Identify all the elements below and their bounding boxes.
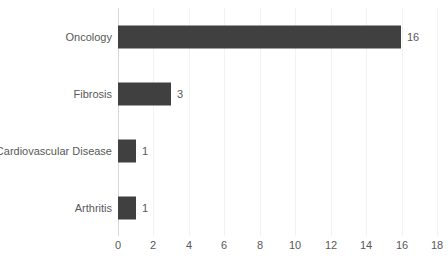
x-tick-10: 10 <box>289 240 301 251</box>
x-tick-6: 6 <box>221 240 227 251</box>
category-label-fibrosis: Fibrosis <box>0 65 112 122</box>
x-tick-2: 2 <box>150 240 156 251</box>
category-label-oncology: Oncology <box>0 8 112 65</box>
category-label-cardiovascular-disease: Cardiovascular Disease <box>0 122 112 179</box>
x-tick-12: 12 <box>325 240 337 251</box>
bar-value-fibrosis: 3 <box>177 88 183 99</box>
bar-value-cardiovascular-disease: 1 <box>142 145 148 156</box>
x-tick-0: 0 <box>115 240 121 251</box>
plot-area: 16 3 1 1 <box>118 8 437 236</box>
category-label-arthritis: Arthritis <box>0 179 112 236</box>
gridline-18 <box>437 8 438 236</box>
x-tick-14: 14 <box>360 240 372 251</box>
bar-row: 1 <box>118 179 437 236</box>
bar-value-oncology: 16 <box>407 31 419 42</box>
x-axis: 0 2 4 6 8 10 12 14 16 18 <box>118 236 437 264</box>
bar-row: 16 <box>118 8 437 65</box>
bar-row: 1 <box>118 122 437 179</box>
x-tick-4: 4 <box>186 240 192 251</box>
bar-chart: Oncology Fibrosis Cardiovascular Disease… <box>0 0 448 264</box>
x-tick-16: 16 <box>396 240 408 251</box>
bar-oncology[interactable] <box>118 25 401 48</box>
bar-value-arthritis: 1 <box>142 202 148 213</box>
category-axis-labels: Oncology Fibrosis Cardiovascular Disease… <box>0 8 112 236</box>
bar-fibrosis[interactable] <box>118 82 171 105</box>
bar-row: 3 <box>118 65 437 122</box>
x-tick-18: 18 <box>431 240 443 251</box>
bar-cardiovascular-disease[interactable] <box>118 139 136 162</box>
bar-arthritis[interactable] <box>118 196 136 219</box>
x-tick-8: 8 <box>257 240 263 251</box>
